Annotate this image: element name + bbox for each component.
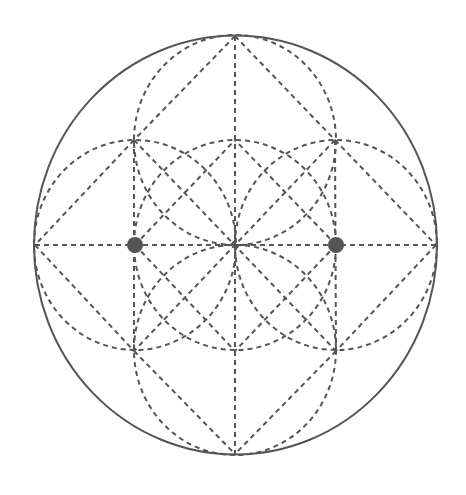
octagon-top-ur (235, 36, 335, 140)
left-focus-dot (127, 237, 143, 253)
geometric-construction-diagram (0, 0, 466, 495)
dashed-lines-group (35, 36, 436, 454)
octagon-lr-bottom (235, 351, 336, 454)
octagon-ll-bottom (134, 351, 235, 454)
octagon-left-ll (35, 245, 134, 351)
octagon-top-ul (134, 36, 235, 140)
right-focus-dot (328, 237, 344, 253)
octagon-ul-left (35, 140, 134, 245)
octagon-ur-right (335, 140, 436, 245)
